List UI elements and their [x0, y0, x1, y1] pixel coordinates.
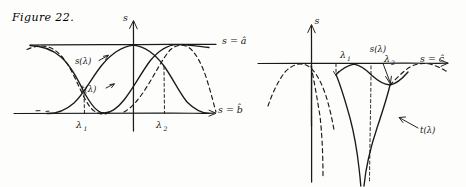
right-s-label-leader	[383, 64, 390, 83]
right-s-curve	[336, 64, 408, 85]
right-dashed-right-arc	[390, 63, 448, 85]
left-lambda-1-tick-label: λ 1	[75, 119, 87, 132]
left-lower-line-label: s = b̂	[218, 103, 243, 115]
left-lower-line-tick-fragment	[36, 111, 49, 112]
right-t-curve-right-branch	[364, 85, 390, 186]
left-dashed-curve-a	[27, 46, 107, 114]
left-upper-line-label: s = â	[222, 35, 247, 46]
left-s-curve	[47, 45, 209, 113]
svg-text:λ: λ	[155, 119, 162, 130]
right-reference-line-label: s = ĉ	[420, 53, 445, 64]
left-dropline-lambda-1	[84, 94, 85, 114]
left-s-curve-label: s(λ)	[75, 56, 91, 66]
right-lambda-1-tick-label: λ 1	[339, 49, 351, 62]
svg-text:1: 1	[84, 125, 88, 132]
right-vertical-axis-label: s	[315, 15, 320, 26]
svg-text:λ: λ	[383, 53, 390, 64]
svg-text:1: 1	[347, 55, 351, 62]
svg-text:2: 2	[163, 125, 168, 132]
right-t-label-leader	[400, 118, 418, 128]
right-t-curve-left-branch	[336, 75, 361, 187]
figure-canvas: s s = â s = b̂ s(λ) t(λ) λ 1 λ 2	[0, 0, 466, 187]
figure-caption: Figure 22.	[12, 6, 74, 25]
svg-text:λ: λ	[75, 119, 82, 130]
right-dashed-left-arc	[268, 64, 334, 130]
left-t-curve	[30, 45, 209, 113]
left-panel: s s = â s = b̂ s(λ) t(λ) λ 1 λ 2	[14, 12, 247, 133]
right-dashed-well-axis	[370, 66, 372, 182]
right-lambda-2-tick-label: λ 2	[383, 53, 395, 66]
svg-text:λ: λ	[339, 49, 346, 60]
right-t-curve-label: t(λ)	[420, 125, 435, 135]
left-lambda-2-tick-label: λ 2	[155, 119, 168, 132]
right-s-curve-label: s(λ)	[370, 44, 386, 54]
right-panel: s s = ĉ s(λ) t(λ) λ 1 λ 2	[258, 15, 448, 186]
left-dropline-lambda-2	[164, 67, 165, 114]
left-vertical-axis-label: s	[123, 12, 128, 23]
figure-caption-text: Figure 22.	[12, 11, 74, 24]
left-t-curve-label: t(λ)	[81, 84, 96, 94]
figure-22-drawing: s s = â s = b̂ s(λ) t(λ) λ 1 λ 2	[0, 0, 466, 187]
svg-text:2: 2	[390, 59, 395, 66]
